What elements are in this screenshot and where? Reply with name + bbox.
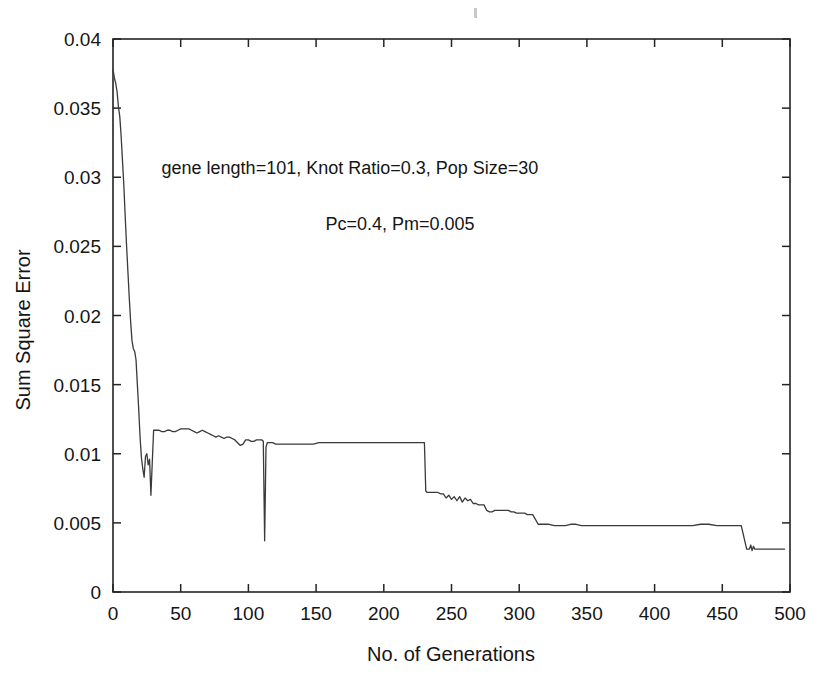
x-tick-label-200: 200 xyxy=(368,603,400,624)
sum-square-error-line-chart: 050100150200250300350400450500 00.0050.0… xyxy=(0,0,819,677)
y-tick-label-0_035: 0.035 xyxy=(53,98,101,119)
x-tick-label-100: 100 xyxy=(233,603,265,624)
x-tick-label-0: 0 xyxy=(108,603,119,624)
x-tick-label-500: 500 xyxy=(774,603,806,624)
x-axis-title: No. of Generations xyxy=(367,643,535,665)
y-tick-label-0_005: 0.005 xyxy=(53,513,101,534)
x-tick-label-50: 50 xyxy=(170,603,191,624)
y-tick-label-0_02: 0.02 xyxy=(64,306,101,327)
y-tick-label-0_015: 0.015 xyxy=(53,375,101,396)
annotation-params-line-1: gene length=101, Knot Ratio=0.3, Pop Siz… xyxy=(162,158,539,178)
y-tick-label-0_03: 0.03 xyxy=(64,167,101,188)
y-tick-label-0_025: 0.025 xyxy=(53,236,101,257)
y-tick-label-0_04: 0.04 xyxy=(64,29,101,50)
x-tick-label-450: 450 xyxy=(706,603,738,624)
x-tick-label-350: 350 xyxy=(571,603,603,624)
x-tick-label-150: 150 xyxy=(300,603,332,624)
plot-background xyxy=(0,0,819,677)
x-tick-label-400: 400 xyxy=(639,603,671,624)
x-tick-label-300: 300 xyxy=(503,603,535,624)
chart-figure: 050100150200250300350400450500 00.0050.0… xyxy=(0,0,819,677)
y-tick-label-0_01: 0.01 xyxy=(64,444,101,465)
annotation-params-line-2: Pc=0.4, Pm=0.005 xyxy=(325,214,474,234)
scan-artifacts xyxy=(474,8,477,18)
x-tick-label-250: 250 xyxy=(436,603,468,624)
y-tick-label-0: 0 xyxy=(90,582,101,603)
y-axis-title: Sum Square Error xyxy=(12,249,34,411)
